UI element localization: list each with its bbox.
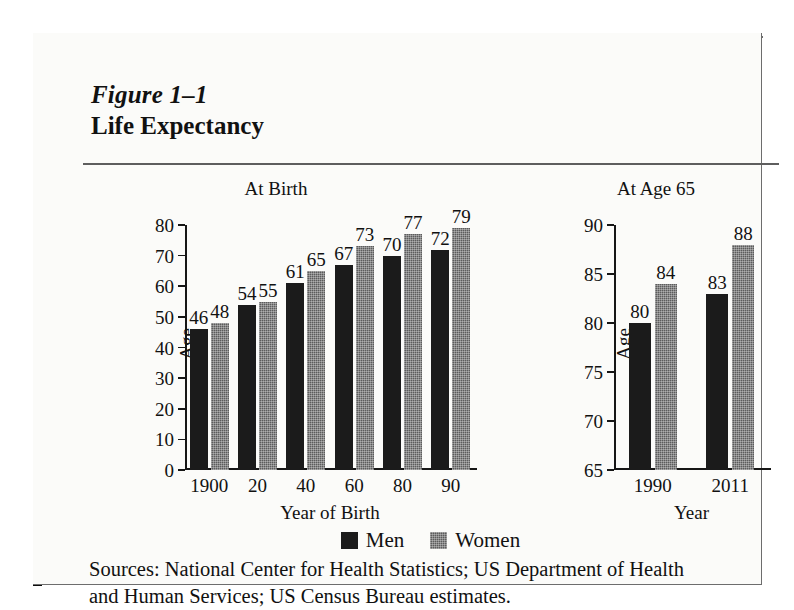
bar-men-90: [431, 250, 449, 471]
y-axis-tick: [178, 285, 185, 287]
bar-men-1900: [190, 329, 208, 470]
sources-line-1: Sources: National Center for Health Stat…: [89, 556, 771, 583]
chart-at-birth: At Birth Age Year of Birth 0102030405060…: [86, 173, 486, 503]
bar-women-60: [356, 246, 374, 470]
y-axis-tick: [178, 439, 185, 441]
chart-legend: Men Women: [66, 528, 794, 553]
y-axis-tick: [607, 469, 614, 471]
legend-item-women: Women: [430, 528, 520, 553]
bar-value-label: 77: [400, 213, 426, 232]
bar-men-2011: [706, 294, 728, 470]
bar-women-90: [452, 228, 470, 470]
y-axis-tick-label: 75: [584, 363, 603, 382]
y-axis-tick-label: 85: [584, 265, 603, 284]
bar-value-label: 73: [352, 225, 378, 244]
bar-men-20: [238, 305, 256, 470]
bar-women-40: [307, 271, 325, 470]
y-axis-tick-label: 0: [165, 461, 175, 480]
y-axis-tick-label: 80: [584, 314, 603, 333]
y-axis-tick-label: 50: [155, 308, 174, 327]
bar-value-label: 72: [427, 229, 453, 248]
y-axis-tick-label: 65: [584, 461, 603, 480]
bar-men-60: [335, 265, 353, 470]
bar-women-1900: [211, 323, 229, 470]
y-axis-tick: [178, 347, 185, 349]
bar-women-1990: [655, 284, 677, 470]
x-axis-title: Year of Birth: [185, 502, 475, 524]
bar-value-label: 80: [627, 302, 653, 321]
y-axis-tick-label: 90: [584, 216, 603, 235]
chart-at-age-65: At Age 65 Age Year 657075808590 19902011…: [506, 173, 791, 503]
y-axis-tick: [607, 371, 614, 373]
y-axis-tick-label: 30: [155, 369, 174, 388]
y-axis-tick-label: 10: [155, 430, 174, 449]
chart-at-birth-plot: Age Year of Birth 01020304050607080 1900…: [185, 225, 475, 470]
figure-number: Figure 1–1: [91, 81, 751, 110]
y-axis-tick-label: 60: [155, 277, 174, 296]
figure-title: Life Expectancy: [91, 111, 751, 141]
x-axis-category-label: 2011: [700, 475, 760, 497]
bar-women-80: [404, 234, 422, 470]
charts-area: At Birth Age Year of Birth 0102030405060…: [66, 173, 794, 503]
y-axis-tick-label: 20: [155, 400, 174, 419]
x-axis-category-label: 1990: [623, 475, 683, 497]
chart-at-age-65-plot: Age Year 657075808590 19902011 80848388: [614, 225, 769, 470]
title-divider-rule: [83, 163, 779, 165]
bar-value-label: 88: [730, 224, 756, 243]
x-axis-category-label: 90: [421, 475, 481, 497]
y-axis-tick: [178, 255, 185, 257]
y-axis-tick: [178, 316, 185, 318]
y-axis-tick: [178, 377, 185, 379]
y-axis-tick: [607, 420, 614, 422]
y-axis-tick-label: 80: [155, 216, 174, 235]
chart-at-age-65-title: At Age 65: [536, 178, 776, 200]
y-axis-tick: [178, 469, 185, 471]
bar-men-80: [383, 256, 401, 470]
legend-swatch-women-icon: [430, 532, 447, 549]
figure-container: Figure 1–1 Life Expectancy At Birth Age …: [33, 33, 762, 585]
bar-value-label: 83: [704, 273, 730, 292]
y-axis-tick: [178, 224, 185, 226]
legend-label-men: Men: [366, 528, 405, 553]
bar-value-label: 79: [448, 207, 474, 226]
legend-item-men: Men: [341, 528, 405, 553]
bar-men-40: [286, 283, 304, 470]
bar-value-label: 70: [379, 235, 405, 254]
bar-value-label: 65: [303, 250, 329, 269]
y-axis-tick: [178, 408, 185, 410]
bar-value-label: 55: [255, 281, 281, 300]
y-axis-tick-label: 70: [584, 412, 603, 431]
y-axis-tick-label: 40: [155, 339, 174, 358]
y-axis-tick: [607, 322, 614, 324]
figure-header: Figure 1–1 Life Expectancy: [91, 81, 751, 141]
legend-label-women: Women: [455, 528, 520, 553]
bar-value-label: 48: [207, 302, 233, 321]
legend-swatch-men-icon: [341, 532, 358, 549]
y-axis-tick-label: 70: [155, 247, 174, 266]
bar-women-20: [259, 302, 277, 470]
y-axis-tick: [607, 273, 614, 275]
bar-men-1990: [629, 323, 651, 470]
bar-women-2011: [732, 245, 754, 470]
y-axis-tick: [607, 224, 614, 226]
x-axis-title: Year: [614, 502, 769, 524]
sources-line-2: and Human Services; US Census Bureau est…: [89, 583, 771, 610]
bar-value-label: 84: [653, 263, 679, 282]
chart-at-birth-title: At Birth: [126, 178, 426, 200]
bar-value-label: 67: [331, 244, 357, 263]
figure-sources: Sources: National Center for Health Stat…: [89, 556, 771, 610]
